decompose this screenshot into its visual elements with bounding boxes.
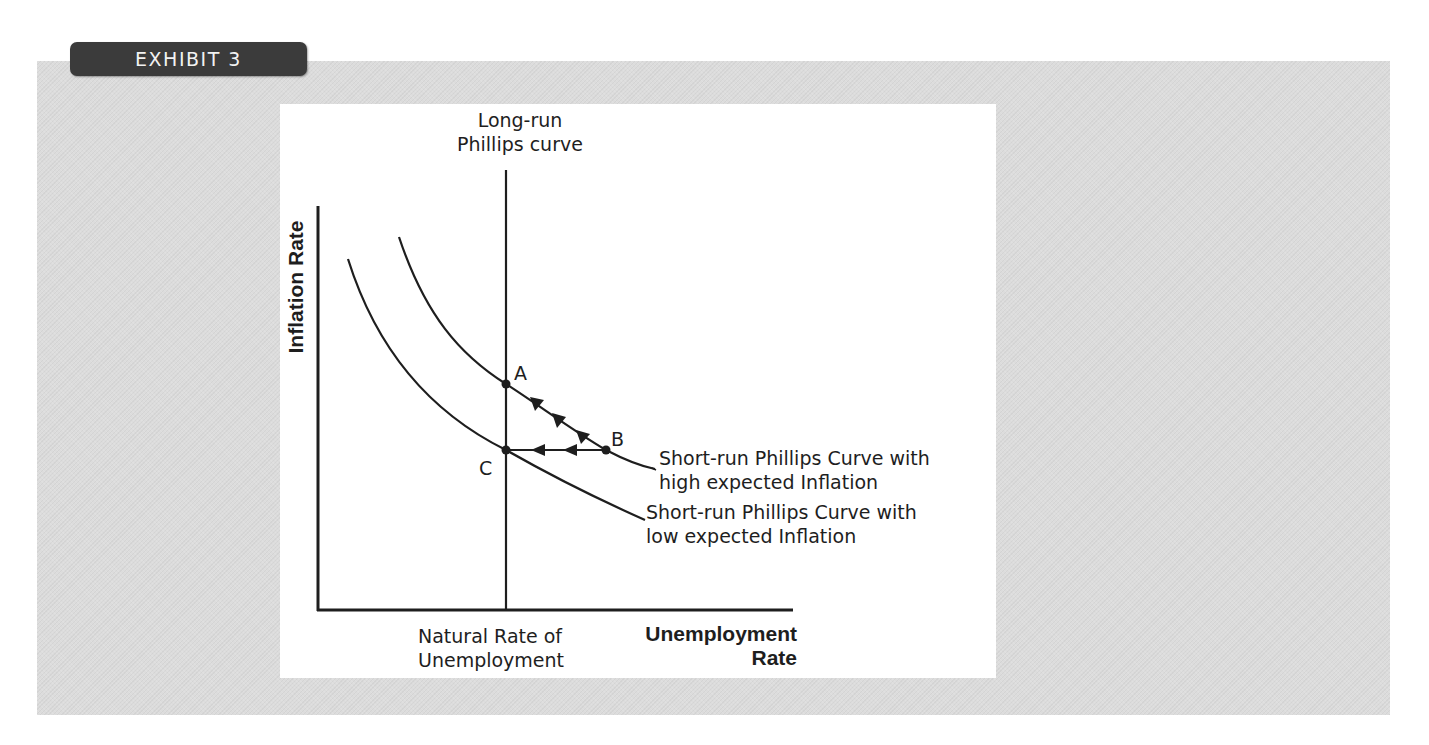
srpc-high-label-line1: Short-run Phillips Curve with: [659, 446, 930, 470]
point-c: [502, 446, 511, 455]
x-axis-label: Unemployment Rate: [597, 622, 797, 670]
x-axis-label-line2: Rate: [597, 646, 797, 670]
point-c-label: C: [479, 456, 492, 480]
point-b-label: B: [611, 427, 624, 451]
srpc-low-label-line1: Short-run Phillips Curve with: [646, 500, 917, 524]
srpc-high-label-line2: high expected Inflation: [659, 470, 930, 494]
srpc-high-leader: [652, 468, 656, 470]
lrpc-label: Long-run Phillips curve: [420, 108, 620, 156]
point-b: [602, 446, 611, 455]
srpc-low-label-line2: low expected Inflation: [646, 524, 917, 548]
lrpc-label-line1: Long-run: [420, 108, 620, 132]
natural-rate-label: Natural Rate of Unemployment: [418, 624, 564, 672]
lrpc-label-line2: Phillips curve: [420, 132, 620, 156]
arrow-icon: [531, 444, 545, 456]
natural-rate-label-line2: Unemployment: [418, 648, 564, 672]
srpc-low-curve: [348, 259, 645, 520]
srpc-low-label: Short-run Phillips Curve with low expect…: [646, 500, 917, 548]
point-a-label: A: [514, 361, 527, 385]
arrow-icon: [563, 444, 577, 456]
x-axis-label-line1: Unemployment: [597, 622, 797, 646]
natural-rate-label-line1: Natural Rate of: [418, 624, 564, 648]
srpc-high-label: Short-run Phillips Curve with high expec…: [659, 446, 930, 494]
point-a: [502, 380, 511, 389]
arrow-icon: [576, 430, 590, 444]
y-axis-label: Inflation Rate: [284, 220, 308, 353]
arrow-icon: [552, 413, 566, 428]
